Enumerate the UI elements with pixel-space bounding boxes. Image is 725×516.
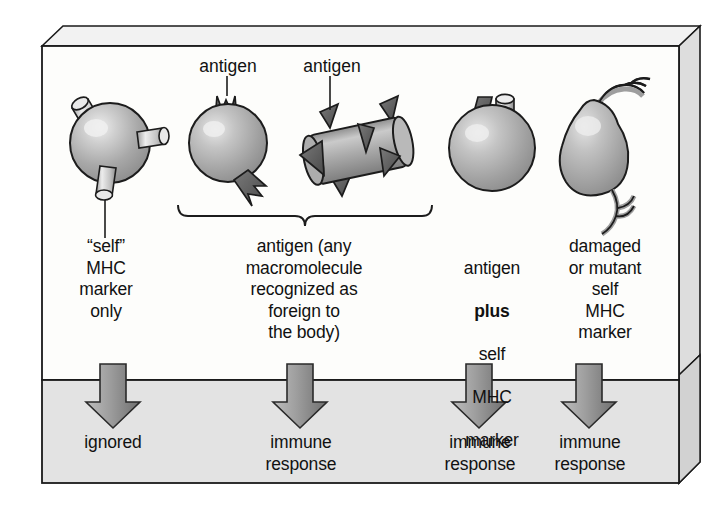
cell-highlight <box>203 121 225 137</box>
label-line-plus: plus <box>474 301 509 321</box>
outcome-column-3: immune response <box>424 432 536 475</box>
cell-body <box>189 104 267 182</box>
label-column-antigen: antigen (any macromolecule recognized as… <box>198 236 410 344</box>
immune-recognition-diagram: antigen antigen “self” MHC marker only a… <box>0 0 725 516</box>
label-column-self-mhc-only: “self” MHC marker only <box>45 236 167 322</box>
cell-highlight <box>465 124 489 142</box>
outcome-column-4: immune response <box>534 432 646 475</box>
label-column-antigen-plus-self-mhc: antigen plus self MHC marker <box>432 236 552 451</box>
mhc-marker-bottom <box>96 166 117 200</box>
outcome-column-1: ignored <box>58 432 168 454</box>
antigen-callout-right: antigen <box>282 56 382 77</box>
box-right-face-lower <box>679 355 700 483</box>
box-top-face <box>42 26 700 46</box>
outcome-column-2: immune response <box>245 432 357 475</box>
cell-highlight <box>84 119 108 137</box>
mhc-marker-right <box>137 128 169 149</box>
label-column-damaged-or-mutant: damaged or mutant self MHC marker <box>540 236 670 344</box>
label-line-mhc: MHC <box>472 387 511 407</box>
cell-highlight <box>575 116 601 136</box>
label-line-self: self <box>479 344 506 364</box>
label-line-antigen: antigen <box>464 258 520 278</box>
antigen-callout-left: antigen <box>178 56 278 77</box>
cell-body <box>449 105 535 191</box>
